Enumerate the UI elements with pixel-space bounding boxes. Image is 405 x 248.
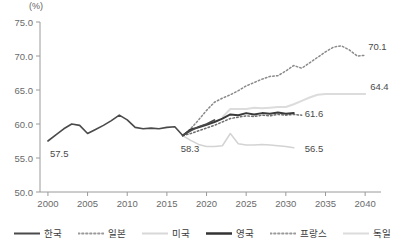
legend-swatch-icon <box>343 229 369 238</box>
data-label-58.3: 58.3 <box>181 143 200 154</box>
y-axis-tick-label: 50.0 <box>15 187 34 198</box>
legend-label: 프랑스 <box>300 226 327 240</box>
legend-swatch-icon <box>142 229 168 238</box>
x-axis-tick-label: 2035 <box>315 198 336 209</box>
legend-label: 일본 <box>108 226 126 240</box>
data-label-57.5: 57.5 <box>50 148 69 159</box>
x-axis-tick-label: 2030 <box>275 198 296 209</box>
x-axis-tick-label: 2000 <box>37 198 58 209</box>
series-line-미국 <box>183 134 294 148</box>
series-line-영국 <box>183 112 294 135</box>
legend-item-영국[interactable]: 영국 <box>206 226 254 240</box>
y-axis-tick-label: 65.0 <box>15 85 34 96</box>
series-line-프랑스 <box>183 114 302 135</box>
legend-item-독일[interactable]: 독일 <box>343 226 391 240</box>
legend-swatch-icon <box>14 229 40 238</box>
x-axis-tick-label: 2020 <box>196 198 217 209</box>
y-axis-tick-label: 70.0 <box>15 51 34 62</box>
legend-item-일본[interactable]: 일본 <box>78 226 126 240</box>
line-chart: (%) 50.055.060.065.070.075.0200020052010… <box>0 0 405 248</box>
data-label-64.4: 64.4 <box>370 81 389 92</box>
x-axis-tick-label: 2015 <box>156 198 177 209</box>
y-axis-tick-label: 60.0 <box>15 119 34 130</box>
legend-item-한국[interactable]: 한국 <box>14 226 62 240</box>
y-axis-tick-label: 75.0 <box>15 17 34 28</box>
legend-label: 독일 <box>373 226 391 240</box>
data-label-56.5: 56.5 <box>305 143 324 154</box>
chart-plot-area: 50.055.060.065.070.075.02000200520102015… <box>0 0 405 248</box>
x-axis-tick-label: 2025 <box>236 198 257 209</box>
legend-swatch-icon <box>206 229 232 238</box>
x-axis-tick-label: 2040 <box>355 198 376 209</box>
y-axis-tick-label: 55.0 <box>15 153 34 164</box>
data-label-70.1: 70.1 <box>368 41 387 52</box>
x-axis-tick-label: 2010 <box>117 198 138 209</box>
chart-legend: 한국일본미국영국프랑스독일 <box>0 218 405 248</box>
legend-swatch-icon <box>78 229 104 238</box>
legend-item-미국[interactable]: 미국 <box>142 226 190 240</box>
x-axis-tick-label: 2005 <box>77 198 98 209</box>
data-label-61.6: 61.6 <box>305 108 324 119</box>
legend-label: 미국 <box>172 226 190 240</box>
series-line-한국 <box>48 115 215 141</box>
legend-label: 한국 <box>44 226 62 240</box>
legend-label: 영국 <box>236 226 254 240</box>
legend-item-프랑스[interactable]: 프랑스 <box>270 226 327 240</box>
legend-swatch-icon <box>270 229 296 238</box>
